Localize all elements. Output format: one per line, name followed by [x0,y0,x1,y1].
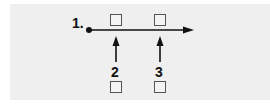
timeline-diagram [0,0,270,105]
answer-box-top-3[interactable] [154,14,166,26]
arrow-3-head-icon [157,36,164,46]
answer-box-bottom-2[interactable] [110,81,122,93]
arrow-2-label: 2 [111,65,119,79]
axis-arrowhead-icon [183,27,194,34]
answer-box-bottom-3[interactable] [154,81,166,93]
origin-label: 1. [72,16,84,30]
arrow-3-label: 3 [155,65,163,79]
answer-box-top-2[interactable] [110,14,122,26]
arrow-2-head-icon [113,36,120,46]
